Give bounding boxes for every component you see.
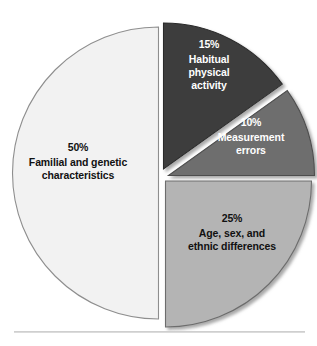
pie-chart-figure: 50% Familial and genetic characteristics… (0, 0, 317, 346)
footer-divider (14, 331, 305, 333)
pie-slice-familial-and-genetic-characteristics (13, 27, 159, 319)
pie-slice-age-sex-and-ethnic-differences (166, 181, 312, 327)
pie-chart-graphic (0, 0, 317, 346)
